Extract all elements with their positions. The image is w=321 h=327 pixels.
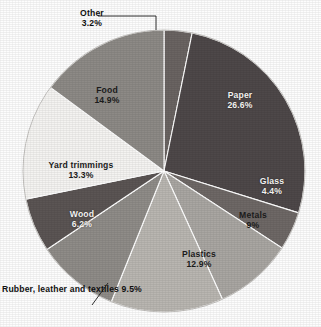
leader-line-other [98, 16, 156, 30]
pie-slices-group [23, 30, 305, 312]
pie-chart-figure: Other 3.2% Paper 26.6% Glass 4.4% Metals… [0, 0, 321, 327]
pie-chart-canvas [0, 0, 321, 327]
